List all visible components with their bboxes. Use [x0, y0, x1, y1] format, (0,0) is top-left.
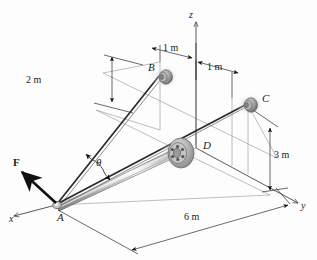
dim-label-1m-left: 1 m — [163, 43, 178, 53]
axis-label-z: z — [189, 10, 193, 20]
dim-label-3m: 3 m — [274, 150, 289, 160]
dim-6m — [58, 188, 290, 254]
engineering-diagram: z y x A B C D F θ 2 m 1 m 1 m 3 m 6 m — [0, 0, 317, 260]
dim-label-6m: 6 m — [184, 212, 199, 222]
cable-ac — [57, 104, 247, 206]
hub-b — [151, 65, 179, 89]
force-label-f: F — [13, 157, 20, 168]
axis-label-x: x — [9, 214, 13, 224]
angle-label-theta: θ — [96, 157, 101, 168]
axis-x — [14, 205, 56, 216]
force-vector-f — [22, 172, 56, 203]
axis-label-y: y — [301, 201, 305, 211]
point-label-c: C — [262, 93, 269, 104]
point-label-d: D — [203, 140, 211, 151]
flange-d — [158, 136, 202, 172]
dim-label-2m: 2 m — [26, 75, 41, 85]
dim-label-1m-right: 1 m — [207, 62, 222, 72]
point-label-a: A — [57, 212, 64, 223]
diagram-canvas — [0, 0, 317, 260]
hub-c — [236, 93, 264, 117]
point-label-b: B — [148, 62, 155, 73]
